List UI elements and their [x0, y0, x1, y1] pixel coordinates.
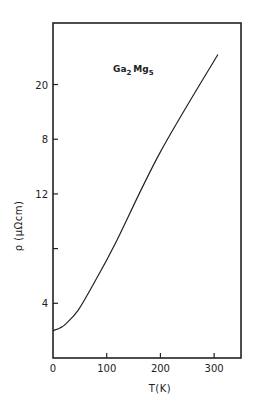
y-axis-label: ρ (μΩcm): [13, 201, 24, 252]
compound-annotation: Ga2Mg5: [113, 64, 154, 77]
resistivity-chart: 0100200300 412820 Ga2Mg5 T(K) ρ (μΩcm): [0, 0, 254, 413]
y-axis-ticks: 412820: [35, 80, 58, 310]
x-tick-label: 300: [205, 363, 224, 374]
y-tick-label: 4: [42, 298, 48, 309]
x-axis-ticks: 0100200300: [50, 353, 224, 374]
x-axis-label: T(K): [148, 383, 171, 394]
x-tick-label: 100: [97, 363, 116, 374]
x-tick-label: 0: [50, 363, 56, 374]
y-tick-label: 12: [35, 189, 48, 200]
data-series-line: [53, 54, 218, 330]
x-tick-label: 200: [151, 363, 170, 374]
y-tick-label: 8: [42, 134, 48, 145]
y-tick-label: 20: [35, 80, 48, 91]
